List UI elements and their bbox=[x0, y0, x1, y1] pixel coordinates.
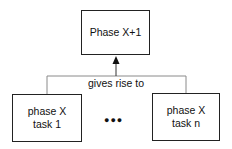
phase-x-task-1-box: phase X task 1 bbox=[12, 94, 82, 142]
task-1-line1: phase X bbox=[28, 105, 67, 118]
ellipsis-dots: ●●● bbox=[104, 115, 123, 125]
phase-x-task-n-box: phase X task n bbox=[152, 93, 220, 141]
task-n-line2: task n bbox=[172, 117, 200, 130]
task-n-line1: phase X bbox=[167, 104, 206, 117]
gives-rise-to-label: gives rise to bbox=[88, 77, 144, 89]
phase-x-plus-1-label: Phase X+1 bbox=[90, 26, 142, 39]
arrow-head-icon bbox=[113, 56, 120, 64]
task-1-line2: task 1 bbox=[33, 118, 61, 131]
phase-x-plus-1-box: Phase X+1 bbox=[81, 10, 150, 55]
